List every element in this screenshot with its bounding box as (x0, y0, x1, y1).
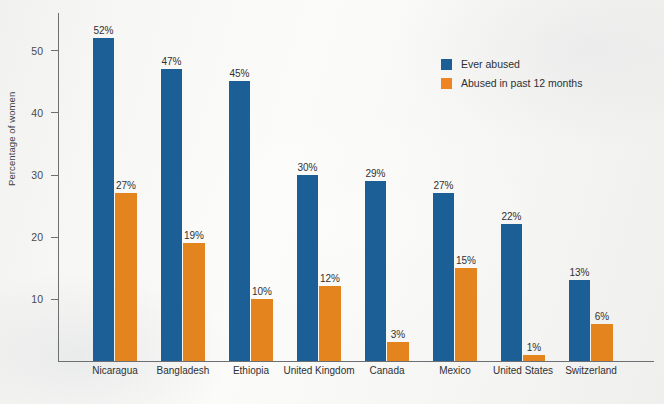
bar[interactable]: 19% (183, 243, 205, 361)
legend-swatch-blue-icon (441, 59, 452, 70)
bar[interactable]: 27% (115, 193, 137, 361)
bar-value-label: 1% (527, 342, 541, 353)
bar[interactable]: 27% (433, 193, 454, 361)
bar-group: 29%3%Canada (365, 13, 409, 361)
y-tick-30: 30 (51, 175, 59, 176)
y-tick-label-10: 10 (31, 293, 43, 305)
y-tick-label-30: 30 (31, 169, 43, 181)
bar-chart-figure: 1020304050 52%27%Nicaragua47%19%Banglade… (0, 0, 664, 404)
y-tick-50: 50 (51, 50, 59, 51)
bar-value-label: 15% (456, 255, 476, 266)
legend-swatch-orange-icon (441, 78, 452, 89)
bar[interactable]: 30% (297, 175, 318, 361)
bar-value-label: 12% (320, 273, 340, 284)
x-axis-category-label: Canada (350, 365, 424, 378)
bar-value-label: 6% (595, 311, 609, 322)
bar[interactable]: 45% (229, 81, 250, 361)
bar[interactable]: 52% (93, 38, 114, 361)
bar-value-label: 27% (433, 180, 453, 191)
y-tick-label-40: 40 (31, 107, 43, 119)
bar[interactable]: 13% (569, 280, 590, 361)
x-axis-category-label: Switzerland (554, 365, 628, 378)
x-axis-category-label: Ethiopia (214, 365, 288, 378)
bar-group: 45%10%Ethiopia (229, 13, 273, 361)
bar-value-label: 13% (569, 267, 589, 278)
x-axis-category-label: United States (486, 365, 560, 378)
chart-legend: Ever abused Abused in past 12 months (441, 58, 582, 96)
bar[interactable]: 47% (161, 69, 182, 361)
y-tick-40: 40 (51, 112, 59, 113)
y-axis-title: Percentage of women (6, 92, 17, 186)
bar[interactable]: 1% (523, 355, 545, 361)
bar-value-label: 29% (365, 168, 385, 179)
bar-group: 52%27%Nicaragua (93, 13, 137, 361)
bar[interactable]: 22% (501, 224, 522, 361)
legend-label-abused-past-12-months: Abused in past 12 months (461, 77, 582, 89)
x-axis-category-label: Nicaragua (78, 365, 152, 378)
bar[interactable]: 15% (455, 268, 477, 361)
bar-value-label: 22% (501, 211, 521, 222)
bar-value-label: 19% (184, 230, 204, 241)
x-axis-category-label: Bangladesh (146, 365, 220, 378)
bar-value-label: 30% (297, 162, 317, 173)
bar-value-label: 47% (161, 56, 181, 67)
legend-label-ever-abused: Ever abused (461, 58, 520, 70)
bar[interactable]: 12% (319, 286, 341, 361)
bar[interactable]: 3% (387, 342, 409, 361)
bar[interactable]: 6% (591, 324, 613, 361)
bar-value-label: 52% (93, 25, 113, 36)
bar[interactable]: 10% (251, 299, 273, 361)
bar[interactable]: 29% (365, 181, 386, 361)
x-axis-category-label: Mexico (418, 365, 492, 378)
x-axis-category-label: United Kingdom (282, 365, 356, 378)
y-tick-label-50: 50 (31, 45, 43, 57)
y-tick-20: 20 (51, 237, 59, 238)
bar-value-label: 10% (252, 286, 272, 297)
y-tick-label-20: 20 (31, 231, 43, 243)
bar-value-label: 3% (391, 329, 405, 340)
legend-item-abused-past-12-months: Abused in past 12 months (441, 77, 582, 89)
bar-group: 30%12%United Kingdom (297, 13, 341, 361)
y-tick-10: 10 (51, 299, 59, 300)
y-axis-line (58, 13, 59, 362)
bar-group: 47%19%Bangladesh (161, 13, 205, 361)
bar-value-label: 45% (229, 68, 249, 79)
bar-value-label: 27% (116, 180, 136, 191)
x-axis-line (58, 361, 654, 362)
legend-item-ever-abused: Ever abused (441, 58, 582, 70)
